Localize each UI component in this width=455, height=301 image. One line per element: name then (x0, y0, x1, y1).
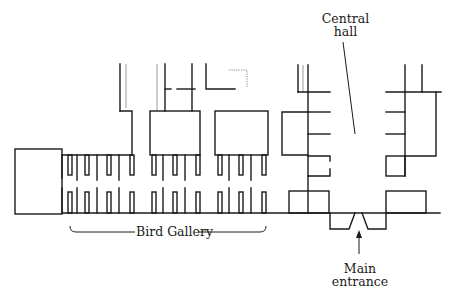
gallery-block-1 (150, 111, 200, 155)
main-entrance-vestibule (330, 213, 386, 229)
central-hall-label-line2: hall (318, 25, 373, 38)
gallery-upper-alcoves (62, 155, 266, 180)
central-hall-east-wing (386, 65, 441, 213)
central-hall-west-wing (282, 65, 330, 213)
upper-corridors (120, 64, 247, 155)
central-hall-label: Central hall (318, 12, 373, 38)
gallery-block-2 (215, 111, 268, 155)
bird-gallery-label: Bird Gallery (136, 225, 198, 238)
central-hall-pointer (343, 42, 355, 134)
main-entrance-label: Main entrance (330, 262, 390, 288)
main-entrance-label-line2: entrance (330, 275, 390, 288)
bird-gallery-label-text: Bird Gallery (136, 224, 213, 239)
west-end-room (15, 149, 62, 214)
main-entrance-arrow-icon (356, 230, 362, 254)
floor-plan (0, 0, 455, 301)
gallery-lower-alcoves (62, 188, 266, 213)
